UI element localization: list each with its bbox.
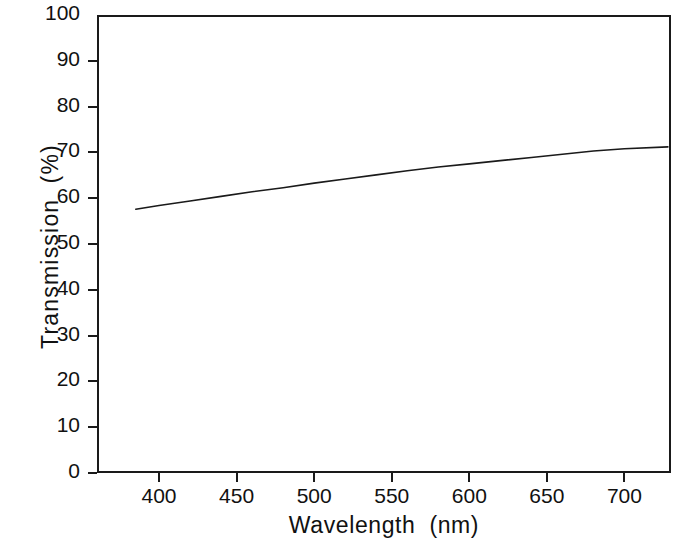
x-tick-mark xyxy=(623,473,625,482)
y-tick-label: 30 xyxy=(0,322,80,346)
y-tick-label: 80 xyxy=(0,93,80,117)
x-tick-label: 700 xyxy=(584,484,664,508)
y-tick-mark xyxy=(88,380,97,382)
y-tick-mark xyxy=(88,335,97,337)
y-tick-mark xyxy=(88,472,97,474)
x-tick-mark xyxy=(546,473,548,482)
y-tick-mark xyxy=(88,426,97,428)
x-tick-label: 450 xyxy=(197,484,277,508)
y-tick-mark xyxy=(88,60,97,62)
y-tick-mark xyxy=(88,151,97,153)
y-tick-mark xyxy=(88,243,97,245)
y-tick-label: 20 xyxy=(0,367,80,391)
x-tick-label: 650 xyxy=(507,484,587,508)
x-tick-label: 550 xyxy=(352,484,432,508)
y-tick-label: 0 xyxy=(0,459,80,483)
y-tick-label: 70 xyxy=(0,138,80,162)
y-tick-label: 40 xyxy=(0,276,80,300)
y-tick-mark xyxy=(88,106,97,108)
x-tick-mark xyxy=(468,473,470,482)
x-tick-mark xyxy=(158,473,160,482)
x-tick-mark xyxy=(236,473,238,482)
y-tick-label: 90 xyxy=(0,47,80,71)
x-tick-mark xyxy=(313,473,315,482)
y-tick-mark xyxy=(88,197,97,199)
plot-area xyxy=(97,15,671,473)
y-tick-mark xyxy=(88,289,97,291)
x-axis-title: Wavelength (nm) xyxy=(97,512,671,539)
y-tick-label: 10 xyxy=(0,413,80,437)
y-tick-label: 60 xyxy=(0,184,80,208)
chart-figure: Transmission (%) 01020304050607080901004… xyxy=(0,0,689,549)
x-tick-label: 500 xyxy=(274,484,354,508)
x-tick-label: 600 xyxy=(429,484,509,508)
y-tick-label: 100 xyxy=(0,1,80,25)
x-tick-mark xyxy=(391,473,393,482)
x-tick-label: 400 xyxy=(119,484,199,508)
y-tick-label: 50 xyxy=(0,230,80,254)
